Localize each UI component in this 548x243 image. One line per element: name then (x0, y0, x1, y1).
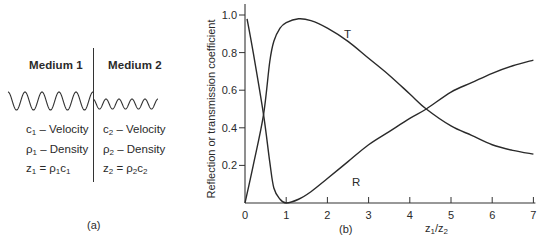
x-tick-label: 4 (407, 209, 413, 221)
x-tick-label: 5 (448, 209, 454, 221)
chart-curves: RT (245, 19, 533, 203)
y-axis-label: Reflection or transmission coefficient (205, 20, 217, 199)
x-tick-label: 3 (366, 209, 372, 221)
y-tick-label: 0.2 (222, 159, 237, 171)
y-tick-label: 1.0 (222, 9, 237, 21)
x-axis-label: z1/z2 (425, 222, 448, 236)
x-tick-label: 2 (324, 209, 330, 221)
curve-r (247, 19, 533, 203)
x-tick-label: 1 (283, 209, 289, 221)
x-tick-label: 6 (489, 209, 495, 221)
curve-t (245, 19, 533, 203)
y-tick-label: 0.4 (222, 122, 237, 134)
y-tick-label: 0.6 (222, 84, 237, 96)
x-tick-label: 7 (530, 209, 536, 221)
coefficient-chart: 012345670.20.40.60.81.0 RT Reflection or… (0, 0, 548, 243)
x-tick-label: 0 (242, 209, 248, 221)
y-tick-label: 0.8 (222, 47, 237, 59)
curve-label-r: R (352, 176, 360, 188)
curve-label-t: T (344, 28, 351, 40)
chart-axes: 012345670.20.40.60.81.0 (222, 4, 537, 221)
panel-b-label: (b) (339, 223, 352, 235)
